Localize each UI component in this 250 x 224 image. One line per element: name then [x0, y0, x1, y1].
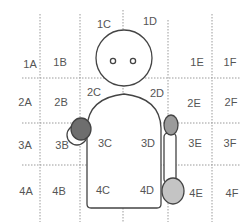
cell-label-2D: 2D — [150, 87, 164, 99]
cell-label-2F: 2F — [225, 96, 238, 108]
right-shoulder-marker — [164, 115, 178, 135]
cell-label-3C: 3C — [98, 137, 112, 149]
body-zone-diagram: 1A 1B 1C 1D 1E 1F 2A 2B 2C 2D 2E 2F 3A 3… — [0, 0, 250, 224]
cell-label-3D: 3D — [141, 137, 155, 149]
cell-label-4F: 4F — [226, 187, 239, 199]
right-eye-icon — [130, 58, 135, 63]
left-eye-icon — [110, 58, 115, 63]
left-shoulder-marker — [71, 118, 91, 140]
cell-label-2C: 2C — [87, 86, 101, 98]
figure — [67, 30, 184, 208]
diagram-canvas — [0, 0, 250, 224]
head-outline — [96, 30, 152, 86]
cell-label-2A: 2A — [18, 96, 31, 108]
cell-label-1F: 1F — [224, 56, 237, 68]
cell-label-4E: 4E — [189, 187, 202, 199]
cell-label-4B: 4B — [52, 185, 65, 197]
cell-label-2B: 2B — [54, 96, 67, 108]
cell-label-2E: 2E — [187, 97, 200, 109]
cell-label-3B: 3B — [55, 139, 68, 151]
cell-label-3F: 3F — [224, 137, 237, 149]
cell-label-3E: 3E — [188, 137, 201, 149]
cell-label-4D: 4D — [140, 184, 154, 196]
right-hand-marker — [162, 178, 184, 204]
right-arm-outline — [164, 133, 176, 183]
cell-label-1A: 1A — [23, 58, 36, 70]
cell-label-3A: 3A — [18, 139, 31, 151]
cell-label-4A: 4A — [19, 185, 32, 197]
cell-label-1C: 1C — [97, 18, 111, 30]
cell-label-1D: 1D — [143, 15, 157, 27]
cell-label-1B: 1B — [53, 56, 66, 68]
cell-label-4C: 4C — [96, 184, 110, 196]
cell-label-1E: 1E — [190, 56, 203, 68]
